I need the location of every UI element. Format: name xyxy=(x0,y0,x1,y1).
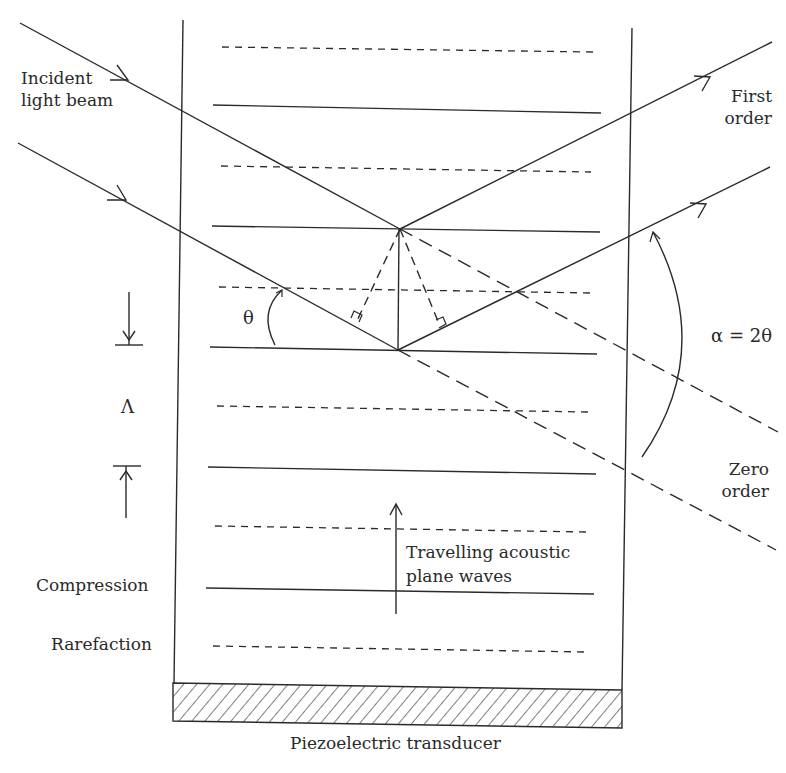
theta-label: θ xyxy=(243,307,254,329)
first-order-label-line2: order xyxy=(690,107,772,129)
alpha-label: α = 2θ xyxy=(711,325,772,347)
piezoelectric-transducer xyxy=(173,683,622,728)
compression-wavefronts xyxy=(206,105,601,594)
alpha-arc xyxy=(642,232,682,457)
incident-label-line2: light beam xyxy=(21,89,113,111)
incident-label-line1: Incident xyxy=(21,67,113,89)
propagation-arrow xyxy=(390,504,402,614)
wavelength-label: Λ xyxy=(121,396,134,418)
compression-label: Compression xyxy=(36,574,149,596)
incident-label: Incident light beam xyxy=(21,67,113,111)
travelling-label-line2: plane waves xyxy=(406,565,570,587)
rarefaction-label: Rarefaction xyxy=(51,633,152,655)
normal-line xyxy=(398,229,399,350)
first-order-label-line1: First xyxy=(690,85,772,107)
transducer-label: Piezoelectric transducer xyxy=(290,732,501,754)
theta-arc xyxy=(268,290,282,345)
cell-right-wall xyxy=(622,28,632,690)
diffraction-diagram: Incident light beam First order Zero ord… xyxy=(0,0,786,773)
cell-left-wall xyxy=(174,20,183,684)
zero-order-label-line1: Zero xyxy=(690,458,769,480)
diagram-graphics xyxy=(0,0,786,773)
zero-order-label: Zero order xyxy=(690,458,769,502)
first-order-label: First order xyxy=(690,85,772,129)
travelling-label-line1: Travelling acoustic xyxy=(406,541,570,563)
zero-order-label-line2: order xyxy=(690,480,769,502)
travelling-label: Travelling acoustic plane waves xyxy=(406,541,570,587)
